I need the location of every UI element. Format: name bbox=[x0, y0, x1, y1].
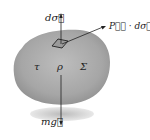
tau-label: τ bbox=[34, 62, 40, 72]
weight-label: mg⃗ bbox=[41, 117, 63, 127]
d-sigma-label: dσ⃗ bbox=[45, 13, 64, 23]
rho-label: ρ bbox=[57, 62, 63, 72]
sigma-label: Σ bbox=[80, 62, 87, 72]
pressure-flux-label: P⃗⃗ · dσ⃗ bbox=[109, 22, 150, 31]
pressure-arrow-head bbox=[101, 26, 106, 30]
